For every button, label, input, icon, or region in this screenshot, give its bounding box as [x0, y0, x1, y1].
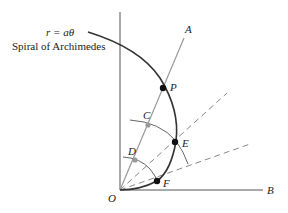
point-p	[160, 85, 166, 91]
label-p: P	[170, 82, 177, 93]
point-e	[172, 139, 178, 145]
point-d	[132, 157, 137, 162]
label-o: O	[108, 193, 116, 204]
arc-ce	[130, 120, 188, 164]
label-c: C	[143, 110, 150, 121]
label-d: D	[128, 146, 136, 157]
dashed-ray-of	[120, 144, 250, 190]
spiral-equation: r = aθ	[46, 26, 74, 38]
label-e: E	[182, 138, 189, 149]
label-f: F	[163, 178, 170, 189]
spiral-title: Spiral of Archimedes	[12, 40, 105, 52]
spiral-figure	[0, 0, 288, 213]
point-f	[154, 178, 160, 184]
spiral-curve	[88, 32, 177, 190]
label-a: A	[185, 24, 192, 35]
point-c	[145, 122, 150, 127]
label-b: B	[267, 185, 274, 196]
